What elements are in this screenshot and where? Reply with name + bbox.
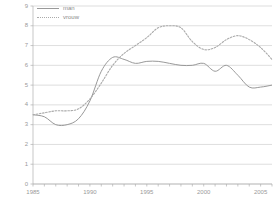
line-chart: 0123456789 19851990199520002005 man vrou… bbox=[0, 0, 276, 204]
y-axis-tick-label: 1 bbox=[12, 161, 28, 168]
gridlines bbox=[31, 6, 273, 184]
x-axis-tick-label: 1995 bbox=[132, 189, 162, 196]
legend-swatch-vrouw bbox=[37, 17, 59, 19]
legend-label-vrouw: vrouw bbox=[63, 13, 79, 22]
chart-plot-area bbox=[0, 0, 276, 204]
y-axis-tick-label: 2 bbox=[12, 141, 28, 148]
y-axis-tick-label: 7 bbox=[12, 42, 28, 49]
y-axis-tick-label: 3 bbox=[12, 121, 28, 128]
y-axis-tick-label: 8 bbox=[12, 22, 28, 29]
x-axis-tick-label: 1990 bbox=[75, 189, 105, 196]
x-axis-tick-label: 2005 bbox=[246, 189, 276, 196]
x-axis-tick-label: 1985 bbox=[18, 189, 48, 196]
series-line-vrouw bbox=[33, 26, 272, 115]
series-line-man bbox=[33, 57, 272, 126]
x-axis-ticks bbox=[33, 184, 272, 187]
y-axis-tick-label: 4 bbox=[12, 101, 28, 108]
y-axis-tick-label: 5 bbox=[12, 82, 28, 89]
y-axis-tick-label: 6 bbox=[12, 62, 28, 69]
chart-legend: man vrouw bbox=[37, 4, 109, 24]
legend-label-man: man bbox=[63, 4, 75, 13]
legend-item-vrouw: vrouw bbox=[37, 13, 109, 22]
y-axis-tick-label: 9 bbox=[12, 3, 28, 10]
legend-item-man: man bbox=[37, 4, 109, 13]
y-axis-tick-label: 0 bbox=[12, 181, 28, 188]
x-axis-tick-label: 2000 bbox=[189, 189, 219, 196]
legend-swatch-man bbox=[37, 8, 59, 10]
